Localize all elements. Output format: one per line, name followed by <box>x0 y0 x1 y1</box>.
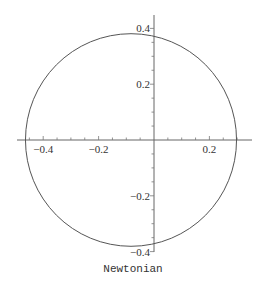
y-tick-label: 0.2 <box>136 78 150 90</box>
y-tick-label: −0.4 <box>130 246 150 258</box>
orbit-plot: −0.4−0.20.20.40.2−0.2−0.4 Newtonian <box>0 0 259 284</box>
x-tick-label: −0.2 <box>89 143 109 155</box>
plot-label: Newtonian <box>103 263 162 275</box>
y-tick-label: 0.4 <box>136 22 150 34</box>
y-tick-label: −0.2 <box>130 190 150 202</box>
axes <box>17 15 252 252</box>
x-tick-label: 0.2 <box>203 143 217 155</box>
x-tick-label: −0.4 <box>33 143 53 155</box>
